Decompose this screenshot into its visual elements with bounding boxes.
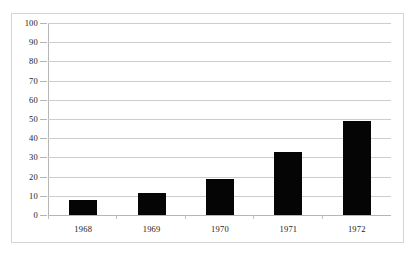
y-axis-tick-label: 100 <box>25 18 38 28</box>
x-axis-label-slot: 1969 <box>117 218 185 236</box>
bar-slot <box>49 23 117 215</box>
y-axis-tick-50 <box>40 119 47 120</box>
y-axis-tick-80 <box>40 61 47 62</box>
y-axis-tick-90 <box>40 42 47 43</box>
bar-slot <box>323 23 391 215</box>
x-axis-tick-label: 1971 <box>280 224 298 234</box>
y-axis-tick-40 <box>40 138 47 139</box>
y-axis-tick-60 <box>40 100 47 101</box>
bars-group <box>49 23 391 215</box>
bar[interactable] <box>206 179 234 215</box>
x-axis-tick-label: 1969 <box>143 224 161 234</box>
bar-slot <box>254 23 322 215</box>
y-axis-tick-label: 40 <box>29 133 38 143</box>
bar-chart-figure: 0102030405060708090100 19681969197019711… <box>11 13 404 243</box>
x-axis-tick-label: 1970 <box>211 224 229 234</box>
y-axis-tick-70 <box>40 81 47 82</box>
y-axis-tick-label: 50 <box>29 114 38 124</box>
y-axis-tick-30 <box>40 157 47 158</box>
x-axis-label-slot: 1972 <box>323 218 391 236</box>
y-axis-tick-20 <box>40 177 47 178</box>
x-axis-tick-label: 1968 <box>74 224 92 234</box>
x-axis-label-slot: 1968 <box>49 218 117 236</box>
x-axis-tick <box>253 215 254 219</box>
bar-slot <box>117 23 185 215</box>
x-axis-tick <box>116 215 117 219</box>
y-axis-tick-label: 60 <box>29 95 38 105</box>
y-axis-tick-label: 80 <box>29 56 38 66</box>
bar[interactable] <box>274 152 302 215</box>
bar[interactable] <box>138 193 166 215</box>
y-axis-tick-label: 30 <box>29 152 38 162</box>
plot-area: 0102030405060708090100 <box>48 23 391 215</box>
x-axis-tick <box>48 215 49 219</box>
bar-slot <box>186 23 254 215</box>
x-axis-label-slot: 1970 <box>186 218 254 236</box>
y-axis-tick-100 <box>40 23 47 24</box>
y-axis-tick-label: 90 <box>29 37 38 47</box>
x-axis-labels-group: 19681969197019711972 <box>49 218 391 236</box>
bar[interactable] <box>69 200 97 215</box>
x-axis-tick <box>185 215 186 219</box>
x-axis-tick-label: 1972 <box>348 224 366 234</box>
x-axis-line <box>48 215 391 216</box>
y-axis-tick-0 <box>40 215 47 216</box>
y-axis-tick-10 <box>40 196 47 197</box>
x-axis-tick <box>322 215 323 219</box>
x-axis-label-slot: 1971 <box>254 218 322 236</box>
y-axis-tick-label: 20 <box>29 172 38 182</box>
bar[interactable] <box>343 121 371 215</box>
y-axis-tick-label: 0 <box>34 210 38 220</box>
y-axis-tick-label: 10 <box>29 191 38 201</box>
y-axis-tick-label: 70 <box>29 76 38 86</box>
